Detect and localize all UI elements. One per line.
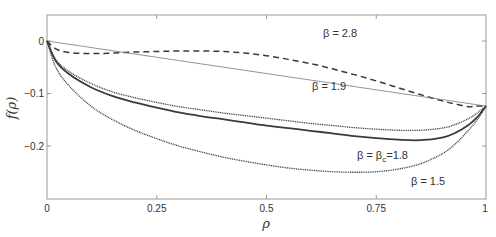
y-tick-label: 0 [38, 36, 44, 47]
annotation-beta-1.9: β = 1.9 [312, 80, 346, 92]
annotation-beta-1.5: β = 1.5 [411, 175, 445, 187]
y-axis-label: f(ρ) [4, 97, 19, 121]
annotation-beta-c: β = βc=1.8 [357, 149, 408, 164]
x-tick-label: 1 [482, 203, 488, 214]
x-ticks [157, 15, 377, 199]
annotation-beta-2.8: β = 2.8 [323, 27, 357, 39]
x-tick-label: 0.5 [260, 203, 274, 214]
curve-beta-1.9 [47, 41, 486, 130]
x-tick-label: 0 [44, 203, 50, 214]
plot-frame [47, 15, 486, 199]
y-tick-label: −0.1 [24, 88, 44, 99]
curve-beta-1.5 [47, 41, 486, 172]
y-ticks [47, 41, 486, 146]
y-tick-label: −0.2 [24, 141, 44, 152]
x-axis-label: ρ [261, 216, 270, 231]
annotation-beta-c-prefix: β = β [357, 149, 382, 161]
x-tick-label: 0.75 [367, 203, 387, 214]
annotation-beta-c-suffix: =1.8 [386, 149, 408, 161]
series-layer [47, 41, 486, 172]
x-tick-label: 0.25 [147, 203, 167, 214]
chart: 0 0.25 0.5 0.75 1 0 −0.1 −0.2 ρ f(ρ) β =… [0, 0, 496, 237]
